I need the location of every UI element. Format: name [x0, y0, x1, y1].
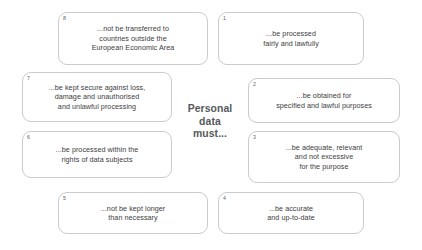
principle-box-5-text: ...not be kept longer than necessary — [94, 204, 173, 223]
principle-box-6-number: 6 — [27, 134, 30, 140]
principle-box-2[interactable]: 2 ...be obtained for specified and lawfu… — [248, 78, 400, 123]
principle-box-6[interactable]: 6 ...be processed within the rights of d… — [22, 131, 172, 178]
principle-box-8-number: 8 — [63, 15, 66, 21]
principle-box-5-number: 5 — [63, 195, 66, 201]
principle-box-6-text: ...be processed within the rights of dat… — [49, 145, 146, 164]
principle-box-2-number: 2 — [253, 81, 256, 87]
principle-box-8[interactable]: 8 ...not be transferred to countries out… — [58, 12, 208, 65]
principle-box-1[interactable]: 1 ...be processed fairly and lawfully — [218, 12, 364, 65]
center-label: Personal data must... — [173, 103, 247, 141]
principle-box-3[interactable]: 3 ...be adequate, relevant and not exces… — [248, 131, 400, 183]
principle-box-7-number: 7 — [27, 75, 30, 81]
principle-box-3-number: 3 — [253, 134, 256, 140]
principle-box-2-text: ...be obtained for specified and lawful … — [269, 91, 379, 110]
principle-box-1-number: 1 — [223, 15, 226, 21]
data-protection-principles-diagram: 8 ...not be transferred to countries out… — [0, 0, 422, 250]
principle-box-4[interactable]: 4 ...be accurate and up-to-date — [218, 192, 364, 234]
principle-box-4-number: 4 — [223, 195, 226, 201]
principle-box-3-text: ...be adequate, relevant and not excessi… — [279, 143, 370, 171]
principle-box-7[interactable]: 7 ...be kept secure against loss, damage… — [22, 72, 172, 122]
principle-box-8-text: ...not be transferred to countries outsi… — [85, 24, 182, 52]
principle-box-7-text: ...be kept secure against loss, damage a… — [42, 83, 153, 111]
principle-box-4-text: ...be accurate and up-to-date — [260, 204, 321, 223]
principle-box-1-text: ...be processed fairly and lawfully — [256, 29, 326, 48]
principle-box-5[interactable]: 5 ...not be kept longer than necessary — [58, 192, 208, 234]
